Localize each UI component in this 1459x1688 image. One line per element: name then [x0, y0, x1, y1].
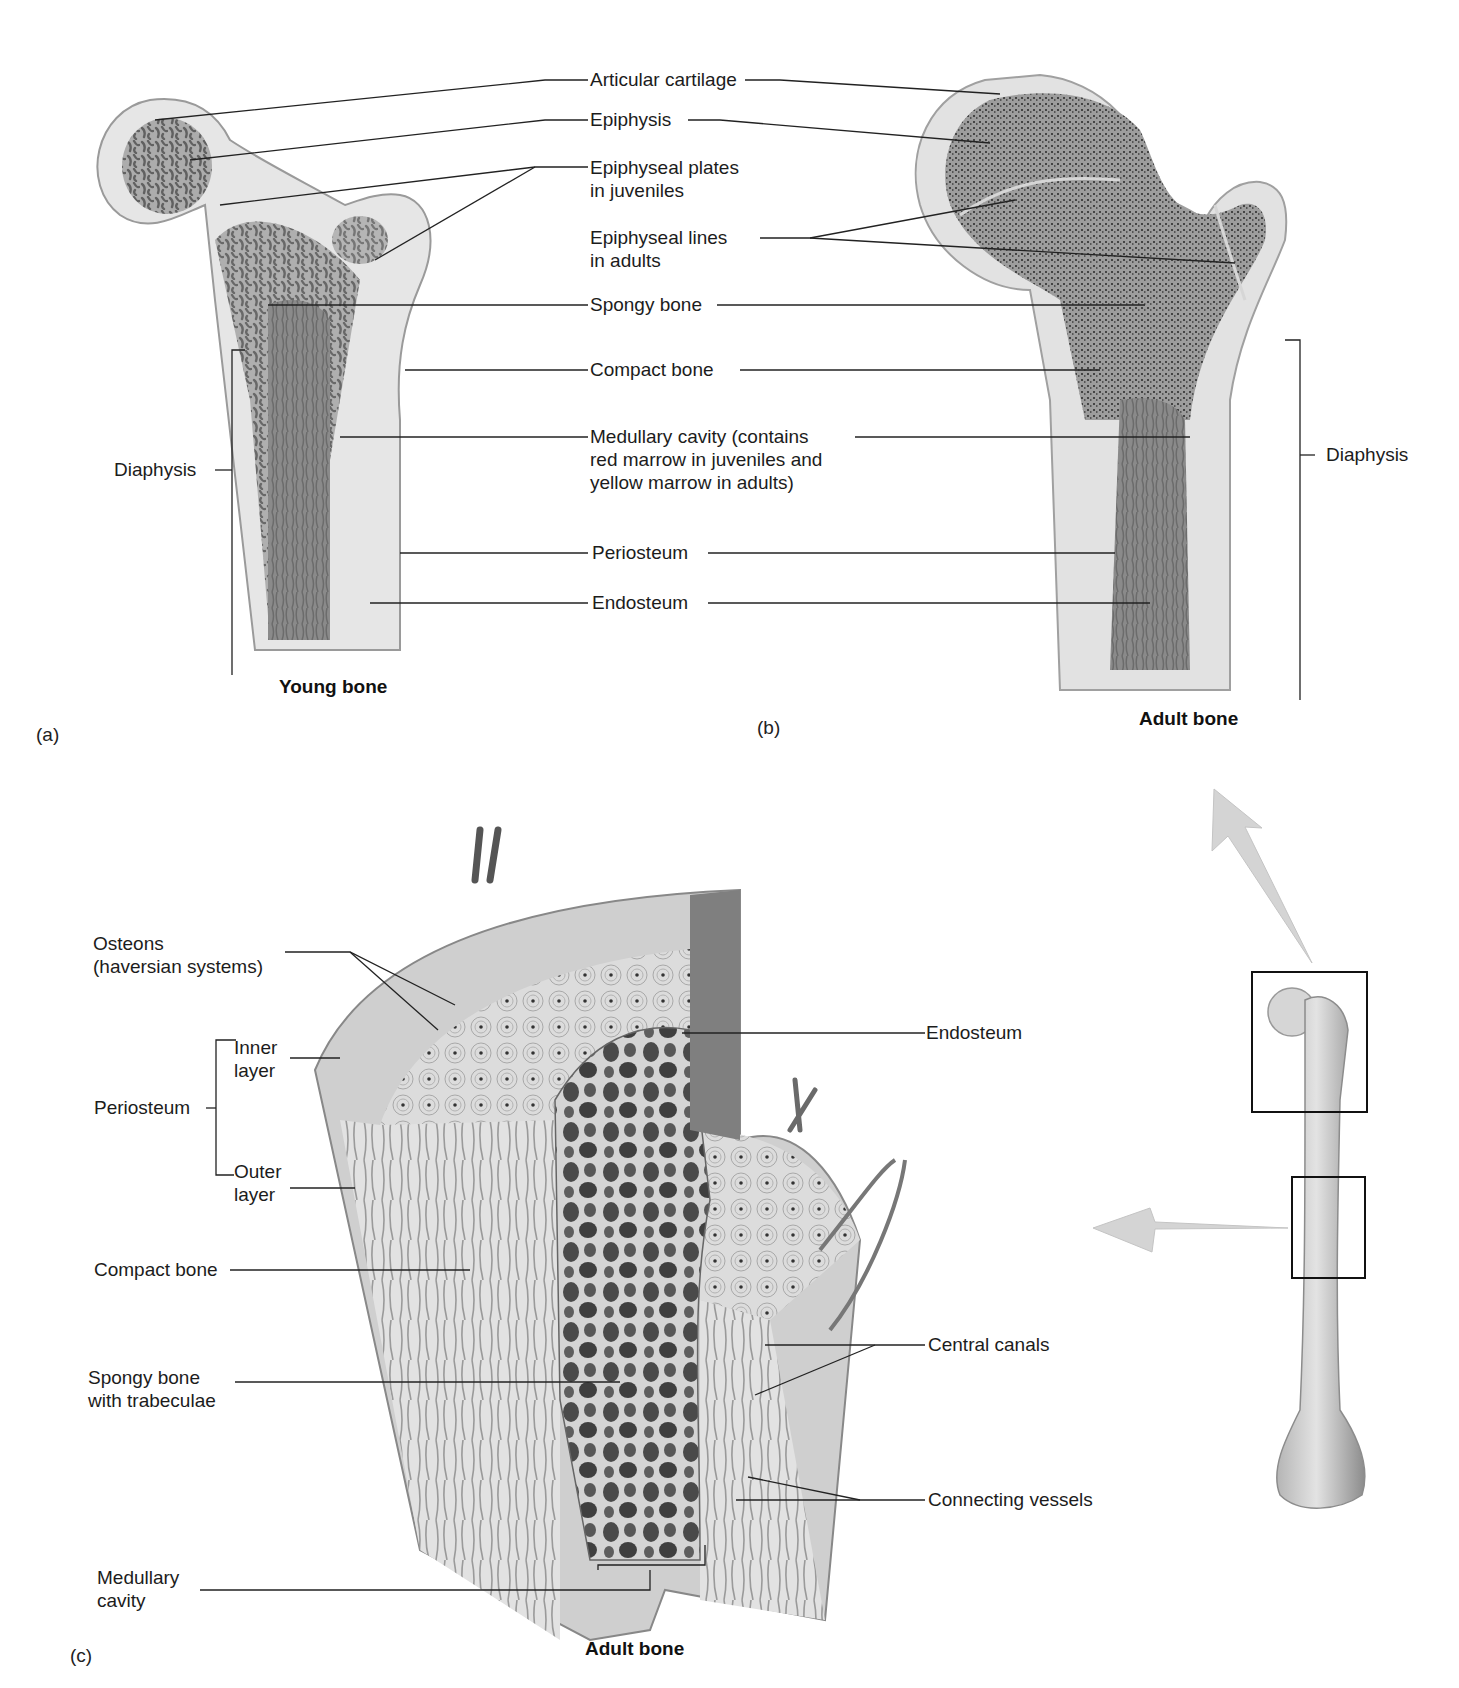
label-outer-layer: Outer layer [234, 1160, 282, 1206]
label-medullary-cavity-c: Medullary cavity [97, 1566, 179, 1612]
caption-adult-bone-b: Adult bone [1139, 708, 1238, 730]
panel-label-b: (b) [757, 717, 780, 739]
label-epiphysis: Epiphysis [590, 108, 671, 131]
label-epiphyseal-lines: Epiphyseal lines in adults [590, 226, 727, 272]
adult-bone-illustration [916, 75, 1287, 690]
label-compact-bone-c: Compact bone [94, 1258, 218, 1281]
label-spongy-bone-trabeculae: Spongy bone with trabeculae [88, 1366, 216, 1412]
label-spongy-bone: Spongy bone [590, 293, 702, 316]
label-central-canals: Central canals [928, 1333, 1049, 1356]
label-periosteum-c: Periosteum [94, 1096, 190, 1119]
arrow-up-icon [1212, 789, 1312, 963]
young-bone-illustration [97, 99, 430, 650]
femur-overview-illustration [1268, 988, 1365, 1508]
label-epiphyseal-plates: Epiphyseal plates in juveniles [590, 156, 739, 202]
label-endosteum: Endosteum [592, 591, 688, 614]
caption-young-bone: Young bone [279, 676, 387, 698]
panel-label-a: (a) [36, 724, 59, 746]
label-inner-layer: Inner layer [234, 1036, 277, 1082]
panel-label-c: (c) [70, 1645, 92, 1667]
label-medullary-cavity: Medullary cavity (contains red marrow in… [590, 425, 822, 494]
label-diaphysis-young: Diaphysis [114, 458, 196, 481]
label-articular-cartilage: Articular cartilage [590, 68, 737, 91]
label-osteons: Osteons (haversian systems) [93, 932, 263, 978]
arrow-left-icon [1093, 1208, 1288, 1252]
label-compact-bone: Compact bone [590, 358, 714, 381]
label-diaphysis-adult: Diaphysis [1326, 443, 1408, 466]
bone-structure-figure: Articular cartilage Epiphysis Epiphyseal… [0, 0, 1459, 1688]
label-periosteum: Periosteum [592, 541, 688, 564]
caption-adult-bone-c: Adult bone [585, 1638, 684, 1660]
label-endosteum-c: Endosteum [926, 1021, 1022, 1044]
compact-bone-block-illustration [315, 830, 905, 1640]
label-connecting-vessels: Connecting vessels [928, 1488, 1093, 1511]
figure-artwork [0, 0, 1459, 1688]
